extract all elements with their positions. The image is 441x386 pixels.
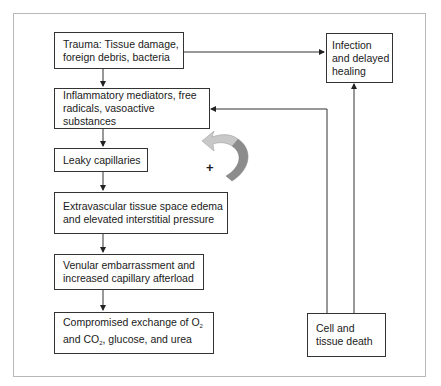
- box-cell-death: Cell andtissue death: [307, 313, 386, 357]
- box-infection-line2: and delayed: [332, 52, 389, 65]
- box-infection-line1: Infection: [332, 39, 389, 52]
- box-venular: Venular embarrassment andincreased capil…: [54, 254, 204, 290]
- box-compromised-line2: and CO2, glucose, and urea: [63, 333, 203, 350]
- box-venular-line2: increased capillary afterload: [63, 272, 195, 285]
- box-edema-line1: Extravascular tissue space edema: [63, 200, 223, 213]
- box-celldeath-line2: tissue death: [316, 335, 373, 348]
- box-infection-line3: healing: [332, 65, 389, 78]
- box-trauma-line1: Trauma: Tissue damage,: [63, 38, 179, 51]
- box-inflammatory-line2: radicals, vasoactive substances: [63, 102, 209, 128]
- box-venular-line1: Venular embarrassment and: [63, 259, 195, 272]
- box-edema-line2: and elevated interstitial pressure: [63, 213, 223, 226]
- box-leaky-line1: Leaky capillaries: [63, 154, 141, 167]
- box-inflammatory-mediators: Inflammatory mediators, freeradicals, va…: [54, 88, 210, 129]
- box-compromised-line1: Compromised exchange of O2: [63, 316, 203, 333]
- box-compromised-exchange: Compromised exchange of O2 and CO2, gluc…: [54, 312, 214, 354]
- box-leaky-capillaries: Leaky capillaries: [54, 148, 148, 172]
- box-edema: Extravascular tissue space edemaand elev…: [54, 192, 228, 234]
- positive-feedback-sign: +: [206, 160, 214, 175]
- box-inflammatory-line1: Inflammatory mediators, free: [63, 89, 209, 102]
- box-trauma: Trauma: Tissue damage,foreign debris, ba…: [54, 32, 184, 69]
- box-celldeath-line1: Cell and: [316, 322, 373, 335]
- box-trauma-line2: foreign debris, bacteria: [63, 51, 179, 64]
- box-infection: Infectionand delayedhealing: [326, 33, 393, 83]
